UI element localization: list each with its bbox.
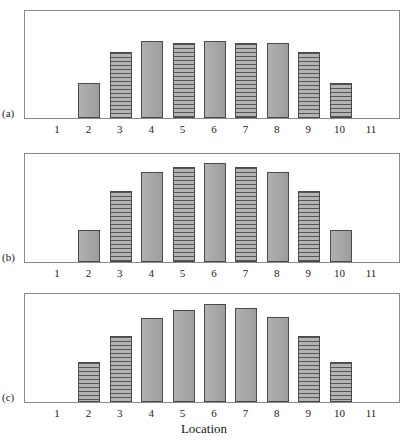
x-axis-ticks-a: 1234567891011 [0, 122, 408, 138]
x-tick-label: 5 [173, 406, 193, 420]
x-tick-label: 6 [204, 406, 224, 420]
x-axis-title: Location [0, 421, 408, 437]
bar [173, 310, 195, 402]
bar [173, 167, 195, 262]
figure-three-panel-bar-charts: (a) 1234567891011 (b) 1234567891011 (c) … [0, 0, 408, 444]
bar [78, 230, 100, 262]
bar [141, 172, 163, 262]
x-axis-ticks-c: 1234567891011 [0, 406, 408, 422]
x-tick-label: 7 [235, 266, 255, 280]
bar [330, 230, 352, 262]
x-tick-label: 10 [330, 122, 350, 136]
bar [330, 362, 352, 402]
x-tick-label: 6 [204, 266, 224, 280]
x-tick-label: 4 [141, 406, 161, 420]
bar [78, 362, 100, 402]
bar [141, 318, 163, 402]
bar [141, 41, 163, 118]
bar [173, 43, 195, 118]
panel-a: (a) 1234567891011 [0, 10, 408, 140]
bar [235, 43, 257, 118]
x-tick-label: 9 [298, 122, 318, 136]
x-tick-label: 10 [330, 266, 350, 280]
x-tick-label: 3 [110, 122, 130, 136]
bar [298, 52, 320, 118]
x-tick-label: 5 [173, 266, 193, 280]
bars-a [25, 11, 399, 118]
plot-frame-a [24, 10, 400, 119]
bars-c [25, 294, 399, 402]
x-tick-label: 8 [267, 266, 287, 280]
bar [110, 191, 132, 262]
panel-b: (b) 1234567891011 [0, 153, 408, 283]
x-tick-label: 3 [110, 266, 130, 280]
plot-frame-c [24, 293, 400, 403]
x-tick-label: 6 [204, 122, 224, 136]
x-tick-label: 4 [141, 122, 161, 136]
bar [110, 336, 132, 402]
panel-label-c: (c) [2, 392, 14, 403]
x-tick-label: 1 [47, 266, 67, 280]
bar [235, 308, 257, 402]
x-tick-label: 11 [361, 406, 381, 420]
x-tick-label: 9 [298, 406, 318, 420]
x-tick-label: 4 [141, 266, 161, 280]
x-tick-label: 10 [330, 406, 350, 420]
x-tick-label: 9 [298, 266, 318, 280]
panel-label-a: (a) [2, 108, 14, 119]
bar [78, 83, 100, 118]
x-tick-label: 2 [78, 266, 98, 280]
x-tick-label: 1 [47, 406, 67, 420]
x-tick-label: 2 [78, 406, 98, 420]
x-tick-label: 1 [47, 122, 67, 136]
x-tick-label: 3 [110, 406, 130, 420]
bar [110, 52, 132, 118]
bar [298, 336, 320, 402]
x-tick-label: 8 [267, 406, 287, 420]
bar [267, 43, 289, 118]
bar [204, 41, 226, 118]
bars-b [25, 154, 399, 262]
bar [267, 317, 289, 402]
x-tick-label: 8 [267, 122, 287, 136]
bar [204, 304, 226, 402]
bar [204, 163, 226, 262]
panel-label-b: (b) [2, 252, 15, 263]
x-tick-label: 11 [361, 266, 381, 280]
bar [235, 167, 257, 262]
x-tick-label: 11 [361, 122, 381, 136]
x-tick-label: 7 [235, 122, 255, 136]
panel-c: (c) 1234567891011 [0, 293, 408, 423]
plot-frame-b [24, 153, 400, 263]
x-axis-ticks-b: 1234567891011 [0, 266, 408, 282]
x-tick-label: 2 [78, 122, 98, 136]
x-tick-label: 7 [235, 406, 255, 420]
bar [267, 172, 289, 262]
x-tick-label: 5 [173, 122, 193, 136]
bar [298, 191, 320, 262]
bar [330, 83, 352, 118]
